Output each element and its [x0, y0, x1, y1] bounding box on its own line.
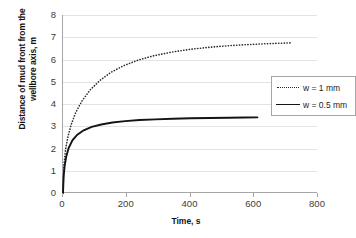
x-tick-label: 0: [45, 199, 79, 209]
x-tick-mark: [253, 193, 254, 197]
y-tick-label: 4: [40, 99, 56, 109]
y-tick-label: 8: [40, 10, 56, 20]
x-tick-mark: [126, 193, 127, 197]
x-tick-mark: [317, 193, 318, 197]
chart-legend: w = 1 mm w = 0.5 mm: [271, 76, 356, 116]
x-tick-label: 400: [173, 199, 207, 209]
dotted-line-icon: [276, 83, 300, 93]
y-tick-label: 2: [40, 144, 56, 154]
y-tick-label: 1: [40, 166, 56, 176]
x-tick-label: 600: [236, 199, 270, 209]
plot-area: w = 1 mm w = 0.5 mm: [62, 15, 317, 193]
y-tick-label: 0: [40, 188, 56, 198]
y-axis-label: Distance of mud front from the wellbore …: [17, 0, 39, 159]
x-axis-label: Time, s: [0, 216, 334, 226]
y-axis-label-line2: wellbore axis, m: [28, 0, 39, 159]
series-line-w05mm: [63, 117, 257, 193]
y-tick-label: 3: [40, 121, 56, 131]
x-tick-mark: [190, 193, 191, 197]
y-axis-label-line1: Distance of mud front from the: [17, 0, 28, 159]
legend-item-w1mm: w = 1 mm: [276, 80, 340, 96]
solid-line-icon: [276, 100, 300, 110]
y-tick-label: 5: [40, 77, 56, 87]
legend-label-w05mm: w = 0.5 mm: [303, 100, 347, 110]
x-tick-mark: [62, 193, 63, 197]
legend-label-w1mm: w = 1 mm: [303, 83, 340, 93]
y-tick-label: 6: [40, 55, 56, 65]
x-tick-label: 200: [109, 199, 143, 209]
legend-item-w05mm: w = 0.5 mm: [276, 97, 347, 113]
y-tick-label: 7: [40, 32, 56, 42]
x-tick-label: 800: [300, 199, 334, 209]
